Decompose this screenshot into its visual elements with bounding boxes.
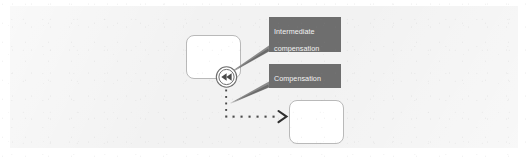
- leader-line-association-shadow: [231, 84, 270, 103]
- figure-canvas: Intermediate compensation boundary event…: [0, 0, 528, 161]
- callout-assoc-line-2: association: [274, 92, 337, 101]
- callout-compensation-association: Compensation association: [269, 64, 341, 88]
- leader-line-association: [230, 82, 270, 104]
- callout-intermediate-compensation-boundary-event: Intermediate compensation boundary event: [269, 17, 341, 52]
- callout-event-line-2: compensation: [274, 45, 337, 54]
- leader-line-event: [229, 46, 270, 74]
- callout-event-line-1: Intermediate: [274, 28, 337, 37]
- diagram-vector-layer: [0, 0, 528, 161]
- association-arrowhead-icon: [279, 111, 287, 122]
- callout-assoc-line-1: Compensation: [274, 75, 337, 84]
- leader-line-event-shadow: [230, 49, 270, 74]
